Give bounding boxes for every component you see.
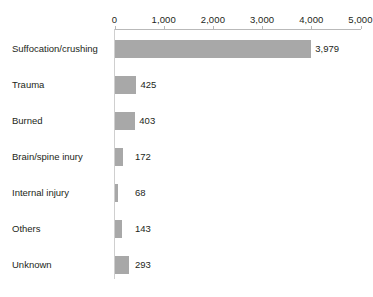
bar-value-label: 172 (135, 151, 151, 163)
x-axis-tick-mark (311, 26, 312, 29)
bar-row: Internal injury68 (0, 175, 373, 211)
bar-row: Trauma425 (0, 67, 373, 103)
x-axis-tick-label: 2,000 (201, 14, 225, 26)
x-axis-tick-label: 3,000 (250, 14, 274, 26)
bar (115, 148, 123, 166)
x-axis-tick-mark (115, 26, 116, 29)
bar (115, 184, 118, 202)
bar (115, 256, 129, 274)
bar-category-label: Suffocation/crushing (12, 43, 98, 55)
x-axis-tick-label: 4,000 (299, 14, 323, 26)
x-axis-line (114, 29, 361, 30)
bar-row: Unknown293 (0, 247, 373, 283)
bar-value-label: 403 (139, 115, 155, 127)
bar-category-label: Brain/spine inury (12, 151, 83, 163)
bar-chart: 01,0002,0003,0004,0005,000 Suffocation/c… (0, 0, 373, 297)
bar-value-label: 68 (135, 187, 146, 199)
bar-value-label: 425 (140, 79, 156, 91)
bar (115, 76, 136, 94)
bar-row: Burned403 (0, 103, 373, 139)
bar-value-label: 143 (135, 223, 151, 235)
bar (115, 40, 311, 58)
x-axis-tick-mark (164, 26, 165, 29)
x-axis-tick-mark (213, 26, 214, 29)
bar-category-label: Internal injury (12, 187, 69, 199)
x-axis-tick-mark (361, 26, 362, 29)
x-axis-tick-mark (262, 26, 263, 29)
x-axis-tick-label: 0 (112, 14, 117, 26)
bar-category-label: Burned (12, 115, 43, 127)
bar-category-label: Trauma (12, 79, 44, 91)
bar (115, 220, 122, 238)
x-axis-tick-label: 5,000 (348, 14, 372, 26)
x-axis-tick-label: 1,000 (152, 14, 176, 26)
bar-value-label: 293 (135, 259, 151, 271)
bar (115, 112, 135, 130)
bar-row: Suffocation/crushing3,979 (0, 31, 373, 67)
bar-category-label: Others (12, 223, 41, 235)
bar-row: Brain/spine inury172 (0, 139, 373, 175)
bar-value-label: 3,979 (315, 43, 339, 55)
bar-row: Others143 (0, 211, 373, 247)
bar-category-label: Unknown (12, 259, 52, 271)
